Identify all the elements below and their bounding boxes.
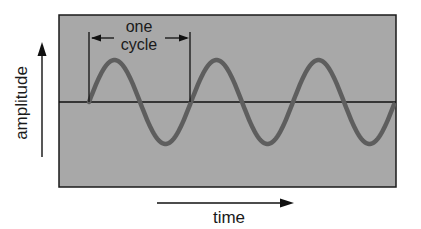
waveform-diagram: one cycle amplitude time	[0, 0, 421, 229]
cycle-label-line2: cycle	[121, 36, 158, 53]
amplitude-axis-arrow-icon	[38, 42, 47, 157]
time-axis-arrow-icon	[157, 199, 294, 208]
cycle-label-line1: one	[126, 18, 153, 35]
y-axis-label: amplitude	[12, 66, 31, 140]
x-axis-label: time	[213, 208, 245, 227]
